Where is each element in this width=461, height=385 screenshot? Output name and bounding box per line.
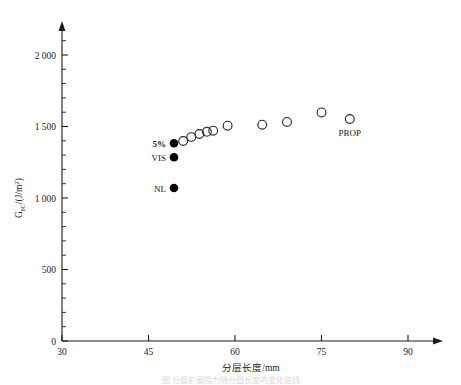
x-axis-title: 分层长度/mm xyxy=(222,362,280,373)
x-tick-label-75: 75 xyxy=(317,347,327,357)
data-point-prop-5 xyxy=(209,126,218,135)
annotation-5pct: 5% xyxy=(153,139,167,149)
x-axis-arrow xyxy=(433,338,443,345)
x-tick-label-90: 90 xyxy=(403,347,413,357)
data-point-5pct xyxy=(170,139,179,148)
y-tick-label-1500: 1 500 xyxy=(35,122,57,132)
y-tick-label-1000: 1 000 xyxy=(35,194,57,204)
x-tick-label-30: 30 xyxy=(57,347,67,357)
y-axis-title: GIC/(J/m2) xyxy=(13,178,27,218)
data-point-nl xyxy=(170,184,179,193)
series-propagation xyxy=(179,108,354,145)
data-point-vis xyxy=(170,153,179,162)
data-point-prop-6 xyxy=(223,121,232,130)
series-initiation xyxy=(170,139,179,192)
data-point-prop-8 xyxy=(283,118,292,127)
x-tick-label-60: 60 xyxy=(230,347,240,357)
y-axis-title-close: ) xyxy=(14,178,25,181)
data-point-prop-9 xyxy=(317,108,326,117)
y-tick-label-0: 0 xyxy=(51,337,56,347)
data-point-prop-2 xyxy=(187,133,196,142)
annotation-nl: NL xyxy=(154,184,166,194)
x-tick-label-45: 45 xyxy=(144,347,154,357)
svg-text:GIC/(J/m2): GIC/(J/m2) xyxy=(13,178,27,218)
figure-caption: 图 分层扩展阻力随分层长度的变化曲线 xyxy=(0,374,461,385)
y-axis-arrow xyxy=(59,21,66,31)
y-minor-ticks xyxy=(62,41,66,327)
data-point-prop-10 xyxy=(345,115,354,124)
y-axis-title-unit: /(J/m xyxy=(14,184,25,204)
annotation-prop: PROP xyxy=(339,128,362,138)
data-point-prop-7 xyxy=(258,120,267,129)
y-tick-label-2000: 2 000 xyxy=(35,51,57,61)
annotation-vis: VIS xyxy=(151,153,166,163)
x-major-ticks xyxy=(62,335,408,341)
y-tick-label-500: 500 xyxy=(42,265,57,275)
data-point-prop-1 xyxy=(179,137,188,146)
